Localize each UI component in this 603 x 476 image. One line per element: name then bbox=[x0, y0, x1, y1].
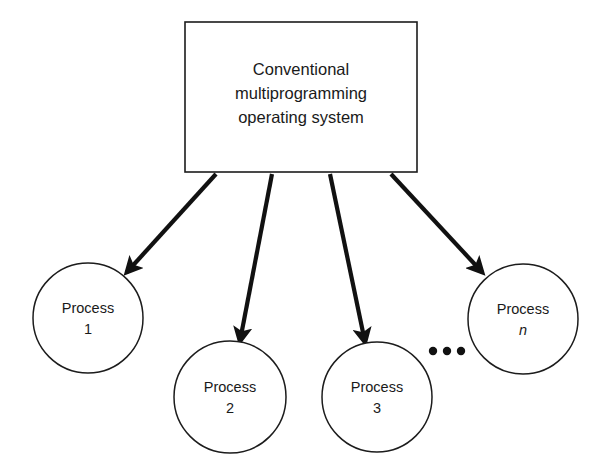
process-2-circle[interactable] bbox=[174, 341, 286, 453]
process-3-index: 3 bbox=[373, 400, 381, 416]
process-2-label: Process bbox=[204, 379, 256, 395]
process-1-index: 1 bbox=[84, 321, 92, 337]
arrow-to-process-n bbox=[391, 174, 482, 272]
diagram-canvas: Conventional multiprogramming operating … bbox=[0, 0, 603, 476]
arrow-to-process-2 bbox=[240, 174, 272, 341]
process-2-node[interactable]: Process 2 bbox=[174, 341, 286, 453]
process-1-circle[interactable] bbox=[33, 263, 143, 373]
ellipsis-dot-1 bbox=[429, 347, 437, 355]
process-n-label: Process bbox=[497, 301, 549, 317]
arrow-group bbox=[127, 174, 482, 342]
root-box-label-line-1: Conventional bbox=[253, 60, 349, 78]
process-2-index: 2 bbox=[226, 400, 234, 416]
process-n-node[interactable]: Process n bbox=[468, 264, 578, 374]
arrow-to-process-3 bbox=[330, 174, 365, 342]
root-box-node[interactable]: Conventional multiprogramming operating … bbox=[185, 22, 417, 172]
ellipsis-dot-3 bbox=[457, 347, 465, 355]
process-3-node[interactable]: Process 3 bbox=[322, 342, 432, 452]
process-n-circle[interactable] bbox=[468, 264, 578, 374]
arrow-to-process-1 bbox=[127, 174, 216, 272]
root-box-label-line-3: operating system bbox=[238, 108, 364, 126]
diagram-svg: Conventional multiprogramming operating … bbox=[0, 0, 603, 476]
process-1-label: Process bbox=[62, 300, 114, 316]
root-box-label-line-2: multiprogramming bbox=[235, 84, 367, 102]
process-3-circle[interactable] bbox=[322, 342, 432, 452]
process-1-node[interactable]: Process 1 bbox=[33, 263, 143, 373]
ellipsis-dot-2 bbox=[443, 347, 451, 355]
process-continuation-ellipsis bbox=[429, 347, 465, 355]
process-3-label: Process bbox=[351, 379, 403, 395]
process-n-index: n bbox=[519, 322, 527, 338]
